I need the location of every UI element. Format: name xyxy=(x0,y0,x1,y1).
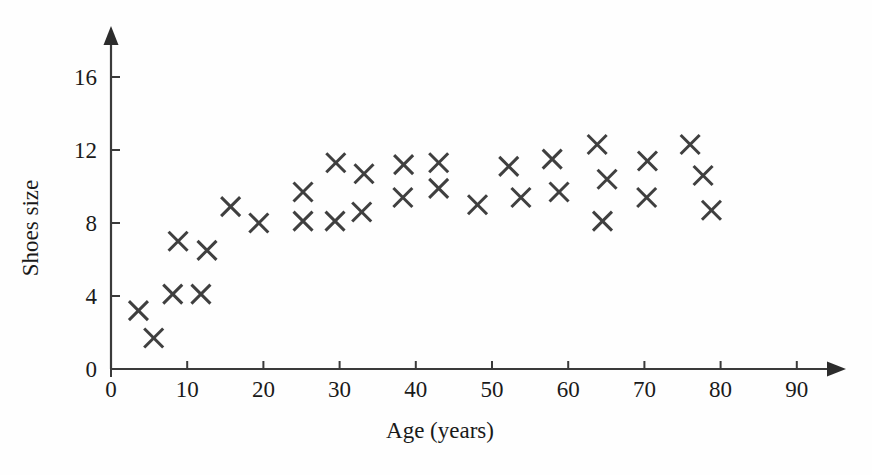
x-tick-label: 80 xyxy=(709,377,732,402)
scatter-chart: 0481216 0102030405060708090 Age (years) … xyxy=(0,0,872,475)
data-point-marker xyxy=(326,212,345,231)
data-point-marker xyxy=(394,155,413,174)
data-point-marker xyxy=(511,188,530,207)
x-tick-label: 40 xyxy=(404,377,427,402)
data-point-marker xyxy=(429,179,448,198)
y-tick-label: 8 xyxy=(86,211,98,236)
data-point-marker xyxy=(294,182,313,201)
data-point-marker xyxy=(550,182,569,201)
y-tick-label: 16 xyxy=(74,65,97,90)
data-point-marker xyxy=(499,157,518,176)
x-axis xyxy=(111,361,846,377)
data-point-marker xyxy=(593,212,612,231)
data-point-marker xyxy=(191,285,210,304)
x-tick-label: 0 xyxy=(105,377,117,402)
y-tick-label: 0 xyxy=(86,357,98,382)
plot-area: 0481216 0102030405060708090 Age (years) … xyxy=(0,0,872,475)
y-tick-labels: 0481216 xyxy=(74,65,98,382)
data-points xyxy=(129,135,721,347)
data-point-marker xyxy=(326,153,345,172)
x-tick-label: 50 xyxy=(481,377,504,402)
data-point-marker xyxy=(144,328,163,347)
data-point-marker xyxy=(198,241,217,260)
data-point-marker xyxy=(702,201,721,220)
data-point-marker xyxy=(169,232,188,251)
data-point-marker xyxy=(694,166,713,185)
data-point-marker xyxy=(637,188,656,207)
data-point-marker xyxy=(588,135,607,154)
x-tick-label: 70 xyxy=(633,377,656,402)
data-point-marker xyxy=(393,188,412,207)
data-point-marker xyxy=(129,301,148,320)
data-point-marker xyxy=(681,135,700,154)
data-point-marker xyxy=(221,197,240,216)
x-tick-label: 10 xyxy=(176,377,199,402)
data-point-marker xyxy=(543,150,562,169)
y-axis xyxy=(104,26,121,369)
y-tick-label: 4 xyxy=(86,284,98,309)
x-tick-label: 60 xyxy=(557,377,580,402)
data-point-marker xyxy=(354,164,373,183)
x-tick-labels: 0102030405060708090 xyxy=(105,377,808,402)
x-axis-title: Age (years) xyxy=(386,418,494,443)
data-point-marker xyxy=(294,212,313,231)
data-point-marker xyxy=(249,214,268,233)
data-point-marker xyxy=(352,203,371,222)
x-axis-arrow-icon xyxy=(827,362,846,377)
data-point-marker xyxy=(429,153,448,172)
y-tick-label: 12 xyxy=(74,138,97,163)
x-tick-label: 20 xyxy=(252,377,275,402)
x-tick-label: 30 xyxy=(328,377,351,402)
data-point-marker xyxy=(598,170,617,189)
data-point-marker xyxy=(163,285,182,304)
y-axis-title: Shoes size xyxy=(18,180,43,276)
data-point-marker xyxy=(638,151,657,170)
y-axis-arrow-icon xyxy=(104,26,119,45)
data-point-marker xyxy=(468,195,487,214)
x-tick-label: 90 xyxy=(785,377,808,402)
